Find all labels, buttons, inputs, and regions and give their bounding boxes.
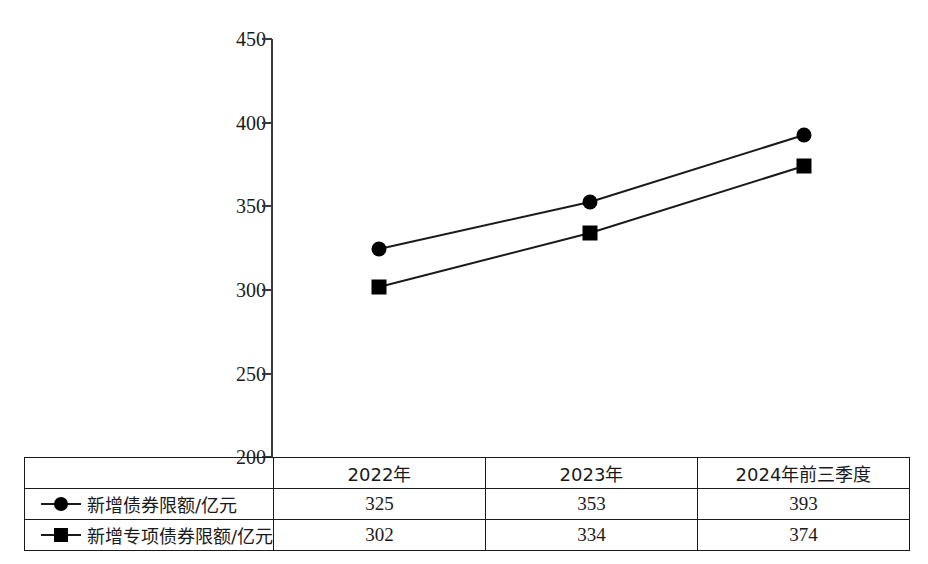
table-row: 新增债券限额/亿元 325 353 393 — [25, 489, 910, 520]
cell-special-bond-2023: 334 — [486, 520, 698, 551]
table-header-2022: 2022年 — [274, 458, 486, 489]
cell-new-bond-2022: 325 — [274, 489, 486, 520]
data-table: 2022年 2023年 2024年前三季度 新增债券限额/亿元 325 353 — [24, 457, 910, 551]
legend-label-new-special-bond-quota: 新增专项债券限额/亿元 — [83, 522, 273, 548]
legend-row-new-bond-quota: 新增债券限额/亿元 — [25, 489, 274, 520]
cell-new-bond-2024: 393 — [698, 489, 910, 520]
series-1-point-2023 — [583, 195, 598, 210]
table-header-row: 2022年 2023年 2024年前三季度 — [25, 458, 910, 489]
legend-label-new-bond-quota: 新增债券限额/亿元 — [83, 491, 237, 517]
table-row: 新增专项债券限额/亿元 302 334 374 — [25, 520, 910, 551]
series-1-point-2022 — [372, 242, 387, 257]
table-header-2023: 2023年 — [486, 458, 698, 489]
series-2-point-2024 — [797, 159, 812, 174]
square-marker-icon — [39, 525, 83, 545]
chart-figure: 450 400 350 300 250 200 — [0, 0, 928, 564]
cell-special-bond-2022: 302 — [274, 520, 486, 551]
series-2-point-2023 — [583, 226, 598, 241]
cell-special-bond-2024: 374 — [698, 520, 910, 551]
series-1-point-2024 — [797, 128, 812, 143]
table-header-2024: 2024年前三季度 — [698, 458, 910, 489]
circle-marker-icon — [39, 494, 83, 514]
series-new-special-bond-quota — [372, 159, 812, 295]
legend-row-new-special-bond-quota: 新增专项债券限额/亿元 — [25, 520, 274, 551]
table-corner-cell — [25, 458, 274, 489]
cell-new-bond-2023: 353 — [486, 489, 698, 520]
series-2-point-2022 — [372, 280, 387, 295]
